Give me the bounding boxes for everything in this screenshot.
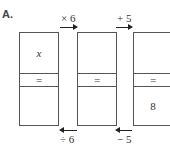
box-1-equals: = (20, 73, 58, 87)
inverse-op-2: − 5 (117, 133, 131, 145)
right-arrow-icon (116, 27, 132, 28)
right-arrow-icon (60, 27, 77, 28)
forward-op-2: + 5 (117, 12, 131, 24)
box-2-bottom (78, 87, 116, 125)
problem-label: A. (2, 8, 13, 20)
box-3-top (134, 33, 170, 73)
box-1-top: x (20, 33, 58, 73)
box-2-top (78, 33, 116, 73)
box-1-bottom (20, 87, 58, 125)
equation-box-2: = (77, 32, 117, 126)
equation-box-3: = 8 (133, 32, 170, 126)
box-2-equals: = (78, 73, 116, 87)
forward-op-1: × 6 (61, 12, 75, 24)
box-3-bottom: 8 (134, 87, 170, 125)
equation-box-1: x = (19, 32, 59, 126)
left-arrow-icon (60, 130, 77, 131)
box-3-equals: = (134, 73, 170, 87)
left-arrow-icon (116, 130, 132, 131)
inverse-op-1: ÷ 6 (60, 133, 74, 145)
